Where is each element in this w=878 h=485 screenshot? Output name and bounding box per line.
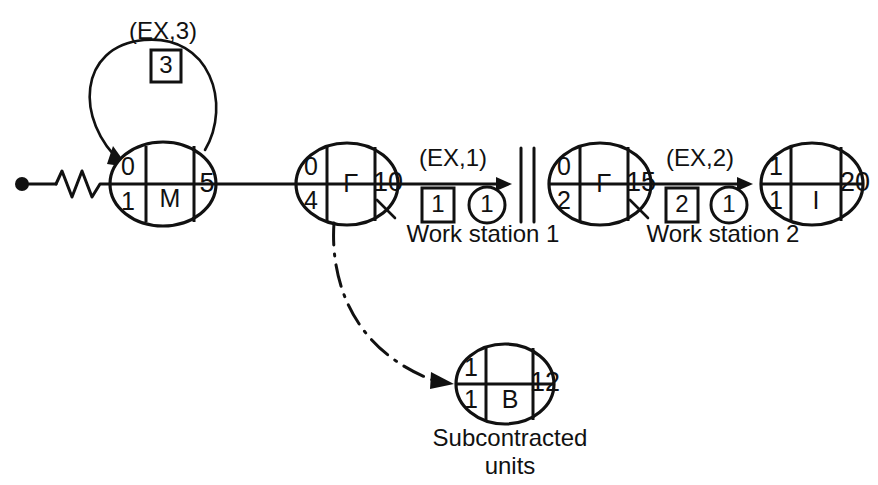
station-separator-1 xyxy=(521,148,534,222)
node-f1-duration: 10 xyxy=(373,167,403,197)
node-f2-top-left: 0 xyxy=(557,152,571,180)
edge-ws2-label: (EX,2) xyxy=(666,144,734,171)
subcontract-caption-line1: Subcontracted xyxy=(433,424,588,451)
edge-ws1-box-value: 1 xyxy=(431,190,444,217)
edge-ws2-caption: Work station 2 xyxy=(647,220,800,247)
node-f2-duration: 15 xyxy=(626,167,656,197)
node-f1-letter: F xyxy=(343,169,358,197)
node-b-duration: 12 xyxy=(530,367,560,397)
edge-ws1-caption: Work station 1 xyxy=(407,220,560,247)
node-b-top-left: 1 xyxy=(464,353,478,381)
edge-ws1-circle-value: 1 xyxy=(480,190,493,217)
edge-ws1-label: (EX,1) xyxy=(419,144,487,171)
node-f1[interactable]: 0 4 F 10 xyxy=(296,143,403,225)
node-m-letter: M xyxy=(160,184,181,212)
node-m[interactable]: 0 1 M 5 xyxy=(110,142,216,226)
edge-ws2-circle-value: 1 xyxy=(722,190,735,217)
node-b-bottom-left: 1 xyxy=(464,385,478,413)
diagram-canvas: (EX,3) 3 0 1 M 5 0 4 F 10 (EX,1) 1 xyxy=(0,0,878,485)
node-i[interactable]: 1 1 I 20 xyxy=(761,143,870,225)
node-i-top-left: 1 xyxy=(769,152,783,180)
edge-ws2-box-value: 2 xyxy=(675,190,688,217)
node-f1-top-left: 0 xyxy=(304,152,318,180)
node-f2[interactable]: 0 2 F 15 xyxy=(549,143,656,225)
node-i-letter: I xyxy=(813,186,820,214)
node-f2-bottom-left: 2 xyxy=(557,186,571,214)
subcontract-arrowhead xyxy=(430,372,454,389)
self-loop-box-value: 3 xyxy=(159,51,172,78)
node-i-bottom-left: 1 xyxy=(769,186,783,214)
edge-ws1-arrowhead xyxy=(496,177,512,191)
node-i-duration: 20 xyxy=(840,167,870,197)
node-b[interactable]: 1 1 B 12 Subcontracted units xyxy=(433,344,588,479)
node-m-bottom-left: 1 xyxy=(121,187,135,215)
network-diagram: (EX,3) 3 0 1 M 5 0 4 F 10 (EX,1) 1 xyxy=(0,0,878,485)
node-f1-bottom-left: 4 xyxy=(304,186,318,214)
self-loop-label: (EX,3) xyxy=(129,17,197,44)
subcontract-link xyxy=(334,223,454,389)
node-m-top-left: 0 xyxy=(121,152,135,180)
node-m-duration: 5 xyxy=(199,168,214,198)
node-b-letter: B xyxy=(502,385,519,413)
subcontract-caption-line2: units xyxy=(485,452,536,479)
node-f2-letter: F xyxy=(596,169,611,197)
